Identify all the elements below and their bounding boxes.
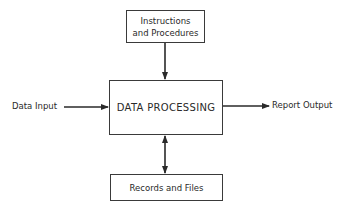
data-input-label: Data Input: [12, 101, 57, 111]
instructions-label-line2: and Procedures: [133, 27, 199, 39]
data-processing-label: DATA PROCESSING: [117, 102, 215, 113]
report-output-label: Report Output: [272, 100, 332, 110]
records-and-files-label: Records and Files: [130, 183, 204, 193]
records-and-files-box: Records and Files: [110, 174, 223, 201]
instructions-and-procedures-box: Instructions and Procedures: [126, 10, 205, 43]
instructions-label-line1: Instructions: [133, 15, 199, 27]
data-processing-box: DATA PROCESSING: [109, 80, 223, 135]
